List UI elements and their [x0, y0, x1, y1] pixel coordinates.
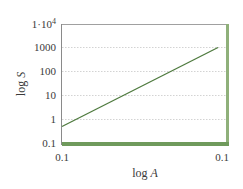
y-tick-100: 100: [40, 65, 57, 77]
y-tick-0.1: 0.1: [42, 137, 56, 149]
y-tick-labels: 1·104 1000 100 10 1 0.1: [32, 17, 57, 149]
y-tick-10000: 1·104: [32, 17, 56, 30]
frame-right: [226, 24, 229, 146]
x-axis-label: log A: [132, 166, 158, 180]
y-tick-10: 10: [45, 89, 57, 101]
chart: 1·104 1000 100 10 1 0.1 0.1 0.1 log A lo…: [0, 0, 243, 189]
frame-bottom: [62, 142, 229, 146]
y-axis-label: log S: [14, 72, 28, 96]
x-tick-left: 0.1: [55, 151, 69, 163]
y-tick-1000: 1000: [34, 41, 57, 53]
x-tick-right: 0.1: [215, 151, 229, 163]
y-tick-1: 1: [51, 113, 57, 125]
